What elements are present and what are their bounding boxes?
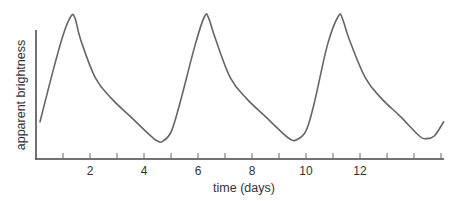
y-axis-label: apparent brightness [14, 40, 28, 151]
x-tick-label: 10 [299, 164, 313, 178]
x-tick-label: 12 [353, 164, 367, 178]
x-tick-label: 6 [195, 164, 202, 178]
plot-area [40, 14, 444, 143]
x-tick-label: 4 [141, 164, 148, 178]
light-curve-chart: 24681012 time (days) apparent brightness [0, 0, 463, 201]
x-axis-label: time (days) [213, 181, 275, 195]
x-tick-label: 2 [87, 164, 94, 178]
x-tick-labels: 24681012 [87, 164, 367, 178]
brightness-curve [40, 14, 444, 143]
x-tick-label: 8 [249, 164, 256, 178]
x-ticks [63, 153, 441, 159]
